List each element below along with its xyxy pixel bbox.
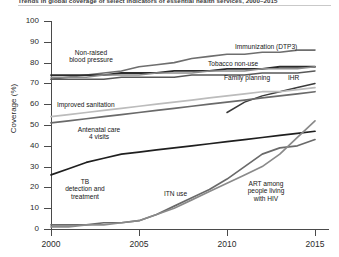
label-improved-sanitation: Improved sanitation xyxy=(57,101,115,108)
label-line-1: Antenatal care xyxy=(68,126,130,133)
label-line-1: ART among xyxy=(237,180,295,187)
label-line-1: TB xyxy=(56,178,114,185)
label-tobacco-non-use: Tobacco non-use xyxy=(208,60,258,67)
label-antenatal-care: Antenatal care 4 visits xyxy=(68,126,130,141)
series-line-ihr xyxy=(227,83,315,112)
label-tb-detection-and-treatment: TB detection and treatment xyxy=(56,178,114,200)
label-immunization-dtp3: Immunization (DTP3) xyxy=(235,43,297,50)
series-lines xyxy=(0,0,339,257)
label-itn-use: ITN use xyxy=(164,190,187,197)
label-art-among-people-living-with-hiv: ART among people living with HIV xyxy=(237,180,295,202)
label-line-1: Non-raised xyxy=(60,49,122,56)
label-line-2: people living xyxy=(237,187,295,194)
label-ihr: IHR xyxy=(288,74,299,81)
label-line-3: with HIV xyxy=(237,195,295,202)
chart-figure: Trends in global coverage of select indi… xyxy=(0,0,339,257)
label-line-2: detection and xyxy=(56,185,114,192)
label-non-raised-blood-pressure: Non-raised blood pressure xyxy=(60,49,122,64)
label-family-planning: Family planning xyxy=(224,74,270,81)
label-line-2: 4 visits xyxy=(68,133,130,140)
label-line-2: blood pressure xyxy=(60,56,122,63)
label-line-3: treatment xyxy=(56,193,114,200)
